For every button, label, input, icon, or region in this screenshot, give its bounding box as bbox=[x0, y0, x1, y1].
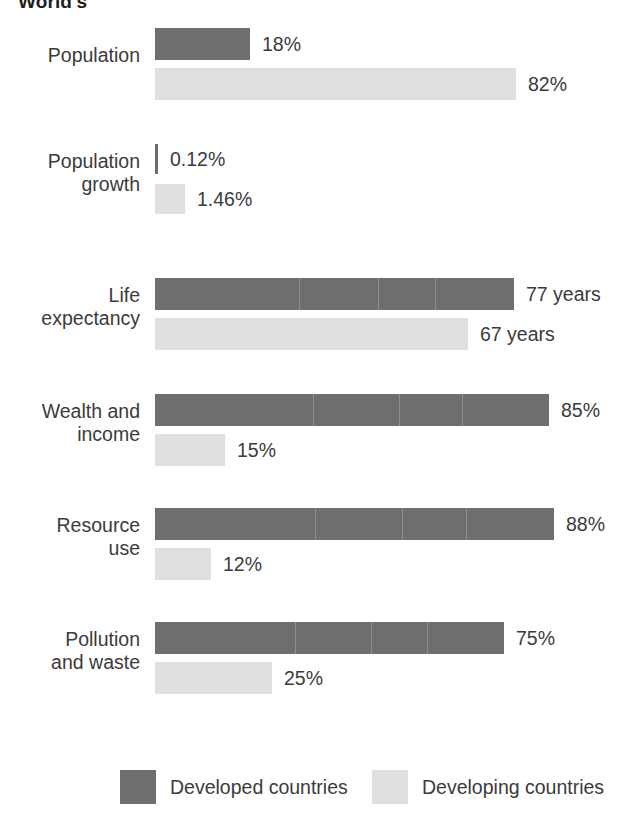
bar-seam bbox=[378, 278, 379, 310]
bar-developed bbox=[155, 622, 504, 654]
bar-row-group: Life expectancy77 years67 years bbox=[0, 272, 630, 372]
bar-developed bbox=[155, 394, 549, 426]
bar-seam bbox=[427, 622, 428, 654]
legend-swatch-developed-icon bbox=[120, 770, 156, 804]
page-title: World's bbox=[18, 0, 87, 13]
legend-label-developing: Developing countries bbox=[422, 776, 604, 799]
bar-value-developing: 82% bbox=[528, 73, 567, 95]
bar-line-developing: 12% bbox=[155, 548, 625, 580]
bar-seam bbox=[371, 622, 372, 654]
bar-developed bbox=[155, 508, 554, 540]
bar-line-developed: 75% bbox=[155, 622, 625, 654]
bar-seam bbox=[295, 622, 296, 654]
row-label: Wealth and income bbox=[0, 400, 140, 446]
chart-legend: Developed countries Developing countries bbox=[0, 770, 630, 810]
bar-developing bbox=[155, 68, 516, 100]
bar-value-developed: 75% bbox=[516, 627, 555, 649]
bar-row-group: Pollution and waste75%25% bbox=[0, 616, 630, 716]
legend-item-developing: Developing countries bbox=[372, 770, 604, 804]
bar-developed bbox=[155, 28, 250, 60]
bar-line-developing: 67 years bbox=[155, 318, 625, 350]
bar-line-developing: 1.46% bbox=[155, 184, 625, 214]
bar-line-developing: 82% bbox=[155, 68, 625, 100]
bar-line-developed: 88% bbox=[155, 508, 625, 540]
bar-row-group: Wealth and income85%15% bbox=[0, 388, 630, 488]
bar-line-developed: 77 years bbox=[155, 278, 625, 310]
bar-seam bbox=[466, 508, 467, 540]
bar-value-developed: 0.12% bbox=[170, 148, 225, 170]
bar-seam bbox=[399, 394, 400, 426]
row-label: Life expectancy bbox=[0, 284, 140, 330]
bar-seam bbox=[435, 278, 436, 310]
bar-developed bbox=[155, 144, 158, 174]
bar-seam bbox=[313, 394, 314, 426]
row-label: Population bbox=[0, 44, 140, 67]
bar-developing bbox=[155, 318, 468, 350]
bar-line-developed: 18% bbox=[155, 28, 625, 60]
bar-value-developed: 88% bbox=[566, 513, 605, 535]
bar-value-developed: 85% bbox=[561, 399, 600, 421]
bar-line-developing: 15% bbox=[155, 434, 625, 466]
bar-developing bbox=[155, 548, 211, 580]
legend-swatch-developing-icon bbox=[372, 770, 408, 804]
legend-item-developed: Developed countries bbox=[120, 770, 348, 804]
bar-value-developing: 1.46% bbox=[197, 188, 252, 210]
bar-seam bbox=[402, 508, 403, 540]
bar-developing bbox=[155, 434, 225, 466]
bar-value-developing: 12% bbox=[223, 553, 262, 575]
bar-developing bbox=[155, 184, 185, 214]
bar-line-developing: 25% bbox=[155, 662, 625, 694]
bar-line-developed: 85% bbox=[155, 394, 625, 426]
bar-seam bbox=[462, 394, 463, 426]
bar-seam bbox=[299, 278, 300, 310]
bar-developed bbox=[155, 278, 514, 310]
legend-label-developed: Developed countries bbox=[170, 776, 348, 799]
bar-seam bbox=[315, 508, 316, 540]
row-label: Population growth bbox=[0, 150, 140, 196]
bar-value-developing: 25% bbox=[284, 667, 323, 689]
bar-developing bbox=[155, 662, 272, 694]
row-label: Resource use bbox=[0, 514, 140, 560]
bar-value-developing: 15% bbox=[237, 439, 276, 461]
bar-row-group: Population growth0.12%1.46% bbox=[0, 138, 630, 238]
row-label: Pollution and waste bbox=[0, 628, 140, 674]
bar-row-group: Resource use88%12% bbox=[0, 502, 630, 602]
bar-value-developed: 18% bbox=[262, 33, 301, 55]
bar-value-developed: 77 years bbox=[526, 283, 601, 305]
bar-value-developing: 67 years bbox=[480, 323, 555, 345]
chart-root: World's Population18%82%Population growt… bbox=[0, 0, 630, 825]
bar-row-group: Population18%82% bbox=[0, 22, 630, 122]
bar-line-developed: 0.12% bbox=[155, 144, 625, 174]
